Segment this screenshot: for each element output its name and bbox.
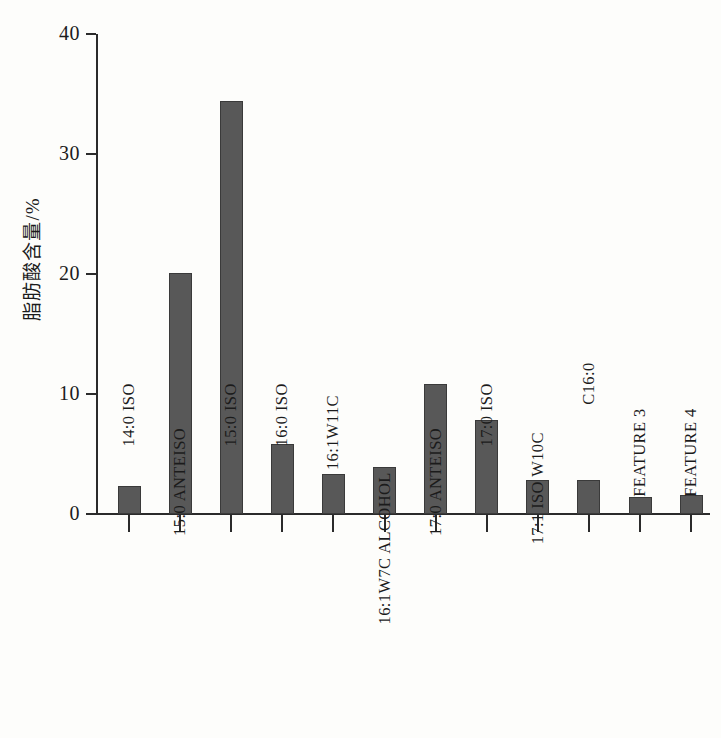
x-tick-label-text: 16:1W11C [324, 395, 342, 470]
x-tick-label-text: FEATURE 3 [631, 408, 649, 496]
x-tick-label: FEATURE 3 [640, 320, 658, 540]
y-tick-mark [86, 33, 96, 35]
x-tick-label: 16:1W7C ALCOHOL [385, 320, 403, 540]
x-tick-label-text: 17:0 ANTEISO [427, 428, 445, 536]
y-tick-label-text: 0 [34, 503, 80, 523]
x-tick-label-text: 17:1 ISO W10C [529, 432, 547, 544]
x-tick-label-text: 17:0 ISO [478, 383, 496, 446]
y-tick-label-text: 20 [34, 263, 80, 283]
x-tick-label-text: 15:0 ISO [222, 383, 240, 446]
x-tick-label-text: 14:0 ISO [120, 383, 138, 446]
y-tick-label-text: 30 [34, 143, 80, 163]
y-tick-label: 30 [18, 143, 80, 163]
x-tick-label: 17:1 ISO W10C [538, 320, 556, 540]
y-tick-label: 0 [18, 503, 80, 523]
x-tick-label: 16:1W11C [333, 320, 351, 540]
y-tick-mark [86, 273, 96, 275]
y-tick-label: 40 [18, 23, 80, 43]
x-tick-label: 17:0 ANTEISO [436, 320, 454, 540]
y-tick-label: 20 [18, 263, 80, 283]
y-tick-label: 10 [18, 383, 80, 403]
x-tick-label-text: 16:1W7C ALCOHOL [376, 472, 394, 624]
x-tick-label-text: 16:0 ISO [273, 383, 291, 446]
y-tick-mark [86, 393, 96, 395]
y-tick-label-text: 40 [34, 23, 80, 43]
y-tick-mark [86, 513, 96, 515]
x-tick-label-text: 15:0 ANTEISO [171, 428, 189, 536]
y-tick-label-text: 10 [34, 383, 80, 403]
bar-chart-plot-area: 脂肪酸含量/% 010203040 14:0 ISO15:0 ANTEISO15… [0, 0, 721, 738]
x-tick-label: FEATURE 4 [691, 320, 709, 540]
x-tick-label: 15:0 ISO [231, 320, 249, 540]
x-tick-label-text: FEATURE 4 [682, 408, 700, 496]
x-tick-label-text: C16:0 [580, 362, 598, 404]
y-tick-mark [86, 153, 96, 155]
x-tick-label: 14:0 ISO [129, 320, 147, 540]
x-tick-label: C16:0 [589, 320, 607, 540]
y-axis-title: 脂肪酸含量/% [22, 174, 44, 344]
x-tick-label: 15:0 ANTEISO [180, 320, 198, 540]
y-axis-line [96, 34, 98, 515]
x-tick-label: 16:0 ISO [282, 320, 300, 540]
x-tick-label: 17:0 ISO [487, 320, 505, 540]
chart-figure: 脂肪酸含量/% 010203040 14:0 ISO15:0 ANTEISO15… [0, 0, 721, 738]
